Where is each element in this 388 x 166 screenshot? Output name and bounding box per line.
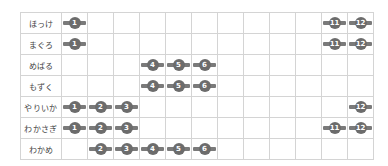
month-number-badge: 4 [147,59,159,71]
month-cell: 1 [62,118,88,139]
month-cell: 1 [62,13,88,34]
month-number-badge: 11 [329,38,341,50]
table-row: もずく456 [21,76,374,97]
table-row: まぐろ11112 [21,34,374,55]
month-cell [270,139,296,160]
month-cell [166,118,192,139]
month-number-badge: 12 [355,38,367,50]
month-cell: 1 [62,34,88,55]
month-number-badge: 4 [147,80,159,92]
table-row: わかめ23456 [21,139,374,160]
month-cell: 12 [348,34,374,55]
month-cell [140,97,166,118]
month-cell [322,55,348,76]
month-number-badge: 1 [69,38,81,50]
month-cell: 12 [348,118,374,139]
month-cell [270,34,296,55]
month-cell [88,55,114,76]
table-row: やりいか12312 [21,97,374,118]
month-cell [296,97,322,118]
month-cell [218,76,244,97]
month-cell [244,34,270,55]
month-cell [244,13,270,34]
month-cell: 3 [114,97,140,118]
month-cell: 5 [166,55,192,76]
month-cell [218,55,244,76]
month-cell [166,34,192,55]
month-number-badge: 3 [121,122,133,134]
month-cell [296,34,322,55]
table-row: めばる456 [21,55,374,76]
month-number-badge: 11 [329,122,341,134]
month-cell [322,76,348,97]
month-number-badge: 1 [69,101,81,113]
month-number-badge: 5 [173,59,185,71]
month-number-badge: 5 [173,143,185,155]
row-label: わかめ [21,139,62,160]
month-cell: 5 [166,76,192,97]
month-cell: 4 [140,55,166,76]
month-cell [244,139,270,160]
month-cell [192,13,218,34]
month-cell [270,76,296,97]
month-cell [166,97,192,118]
month-cell: 6 [192,55,218,76]
month-cell [192,97,218,118]
month-cell [270,13,296,34]
row-label: めばる [21,55,62,76]
month-cell: 3 [114,139,140,160]
month-cell [322,97,348,118]
month-cell [192,118,218,139]
month-cell [244,118,270,139]
month-number-badge: 6 [199,59,211,71]
month-cell [140,13,166,34]
month-number-badge: 11 [329,17,341,29]
month-cell [296,118,322,139]
month-cell: 11 [322,118,348,139]
month-number-badge: 3 [121,101,133,113]
month-cell [114,76,140,97]
month-number-badge: 12 [355,101,367,113]
month-cell [114,13,140,34]
month-cell [244,76,270,97]
month-cell [296,139,322,160]
month-number-badge: 1 [69,122,81,134]
month-cell [244,55,270,76]
month-number-badge: 1 [69,17,81,29]
month-cell [348,76,374,97]
row-label: わかさぎ [21,118,62,139]
month-cell: 12 [348,13,374,34]
row-label: もずく [21,76,62,97]
month-number-badge: 12 [355,122,367,134]
month-cell [140,34,166,55]
month-cell [348,55,374,76]
row-label: まぐろ [21,34,62,55]
month-cell: 2 [88,139,114,160]
month-number-badge: 12 [355,17,367,29]
month-number-badge: 6 [199,143,211,155]
month-cell [62,139,88,160]
month-cell [140,118,166,139]
month-cell [192,34,218,55]
month-cell [296,13,322,34]
row-label: やりいか [21,97,62,118]
table-row: わかさぎ1231112 [21,118,374,139]
month-cell [218,118,244,139]
month-cell: 6 [192,76,218,97]
month-cell [62,55,88,76]
month-cell: 4 [140,139,166,160]
month-number-badge: 6 [199,80,211,92]
month-cell [348,139,374,160]
month-cell: 2 [88,97,114,118]
month-cell: 6 [192,139,218,160]
month-cell [88,34,114,55]
month-number-badge: 2 [95,143,107,155]
month-cell [296,55,322,76]
row-label: ほっけ [21,13,62,34]
seasonal-calendar-table: ほっけ11112まぐろ11112めばる456もずく456やりいか12312わかさ… [20,12,374,160]
month-cell [218,34,244,55]
month-cell [270,118,296,139]
month-cell [322,139,348,160]
month-cell [218,13,244,34]
month-cell: 12 [348,97,374,118]
